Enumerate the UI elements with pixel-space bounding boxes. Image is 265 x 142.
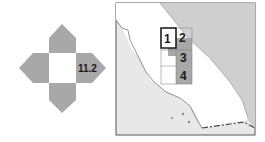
locator-map: 1 2 3 4 <box>110 0 265 142</box>
arrow-up-icon[interactable] <box>49 24 76 53</box>
sheet-label-1[interactable]: 1 <box>164 32 171 46</box>
sheet-label-4[interactable]: 4 <box>180 69 187 83</box>
sheet-label-3[interactable]: 3 <box>180 51 187 65</box>
page-number-label: 11.2 <box>78 63 97 74</box>
arrow-left-icon[interactable] <box>19 53 49 83</box>
island <box>171 117 173 119</box>
sheet-label-2[interactable]: 2 <box>179 31 186 45</box>
island <box>188 121 190 123</box>
sheet-highlight-3b <box>168 48 176 56</box>
navigation-compass: 11.2 <box>0 0 110 142</box>
island <box>182 113 184 115</box>
arrow-down-icon[interactable] <box>49 83 76 113</box>
